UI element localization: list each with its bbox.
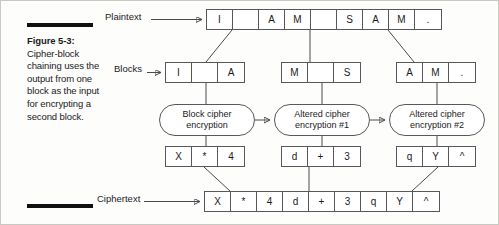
label-ciphertext: Ciphertext — [97, 193, 140, 204]
caption-description: Cipher-block chaining uses the output fr… — [27, 48, 105, 124]
ciphertext-cell: Y — [387, 192, 413, 211]
caption-rule-bottom — [27, 204, 93, 208]
plaintext-cell: I — [207, 10, 233, 29]
cipher-block-cell: q — [397, 147, 423, 166]
caption-text: Figure 5-3: Cipher-block chaining uses t… — [27, 35, 105, 123]
ciphertext-cell: q — [361, 192, 387, 211]
process-line-1: Altered cipher — [294, 109, 350, 120]
plaintext-cell — [311, 10, 337, 29]
cipher-block-cell: * — [192, 147, 218, 166]
figure-cipher-block-chaining: Figure 5-3: Cipher-block chaining uses t… — [0, 0, 499, 225]
ciphertext-cell: * — [231, 192, 257, 211]
cipher-block-cell: d — [282, 147, 308, 166]
block-cell: M — [282, 63, 308, 82]
block-group: M S — [281, 62, 361, 83]
plaintext-cell: A — [363, 10, 389, 29]
block-cell: A — [218, 63, 244, 82]
block-cell: I — [166, 63, 192, 82]
caption-figure-number: Figure 5-3: — [27, 35, 105, 48]
label-plaintext: Plaintext — [105, 11, 141, 22]
ciphertext-cell: 3 — [335, 192, 361, 211]
plaintext-cell: S — [337, 10, 363, 29]
ciphertext-strip: X * 4 d + 3 q Y ^ — [204, 191, 440, 212]
process-line-2: encryption #2 — [410, 120, 464, 131]
plaintext-cell — [233, 10, 259, 29]
block-cell: A — [397, 63, 423, 82]
block-cell — [308, 63, 334, 82]
label-blocks: Blocks — [114, 63, 142, 74]
process-line-1: Altered cipher — [409, 109, 465, 120]
plaintext-cell: . — [415, 10, 441, 29]
ciphertext-cell: X — [205, 192, 231, 211]
process-line-2: encryption — [186, 120, 228, 131]
block-cell: S — [334, 63, 360, 82]
cipher-block-cell: 4 — [218, 147, 244, 166]
block-group: A M . — [396, 62, 476, 83]
plaintext-cell: A — [259, 10, 285, 29]
block-cell: . — [449, 63, 475, 82]
cipher-block-cell: 3 — [334, 147, 360, 166]
process-altered-cipher-encryption-2: Altered cipher encryption #2 — [389, 104, 485, 136]
figure-caption: Figure 5-3: Cipher-block chaining uses t… — [27, 23, 105, 123]
block-cell — [192, 63, 218, 82]
ciphertext-cell: d — [283, 192, 309, 211]
process-line-1: Block cipher — [182, 109, 231, 120]
caption-rule-top — [27, 23, 93, 27]
cipher-block-cell: X — [166, 147, 192, 166]
plaintext-strip: I A M S A M . — [206, 9, 442, 30]
cipher-block-group: X * 4 — [165, 146, 245, 167]
ciphertext-cell: 4 — [257, 192, 283, 211]
ciphertext-cell: ^ — [413, 192, 439, 211]
plaintext-cell: M — [389, 10, 415, 29]
cipher-block-cell: Y — [423, 147, 449, 166]
block-cell: M — [423, 63, 449, 82]
process-altered-cipher-encryption-1: Altered cipher encryption #1 — [274, 104, 370, 136]
cipher-block-cell: ^ — [449, 147, 475, 166]
process-line-2: encryption #1 — [295, 120, 349, 131]
ciphertext-cell: + — [309, 192, 335, 211]
process-block-cipher-encryption: Block cipher encryption — [159, 104, 255, 136]
cipher-block-cell: + — [308, 147, 334, 166]
cipher-block-group: d + 3 — [281, 146, 361, 167]
cipher-block-group: q Y ^ — [396, 146, 476, 167]
block-group: I A — [165, 62, 245, 83]
plaintext-cell: M — [285, 10, 311, 29]
